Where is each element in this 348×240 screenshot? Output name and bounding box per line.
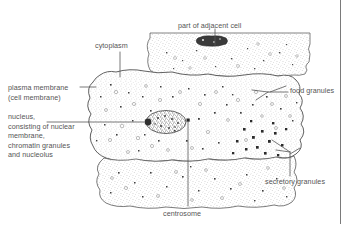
- label-centrosome: centrosome: [163, 209, 201, 219]
- adjacent-cell-top: [147, 33, 310, 77]
- label-cytoplasm: cytoplasm: [95, 41, 128, 51]
- label-secretory-granules: secretory granules: [265, 177, 325, 187]
- main-cell: [88, 70, 304, 162]
- nucleolus: [145, 119, 152, 126]
- label-part-of-adjacent-cell: part of adjacent cell: [178, 21, 241, 31]
- adjacent-cell-nucleus: [196, 36, 227, 47]
- centrosome-body: [187, 119, 190, 122]
- label-nucleus: nucleus, consisting of nuclear membrane,…: [8, 112, 75, 160]
- label-plasma-membrane: plasma membrane (cell membrane): [8, 83, 68, 102]
- label-food-granules: food granules: [290, 86, 334, 96]
